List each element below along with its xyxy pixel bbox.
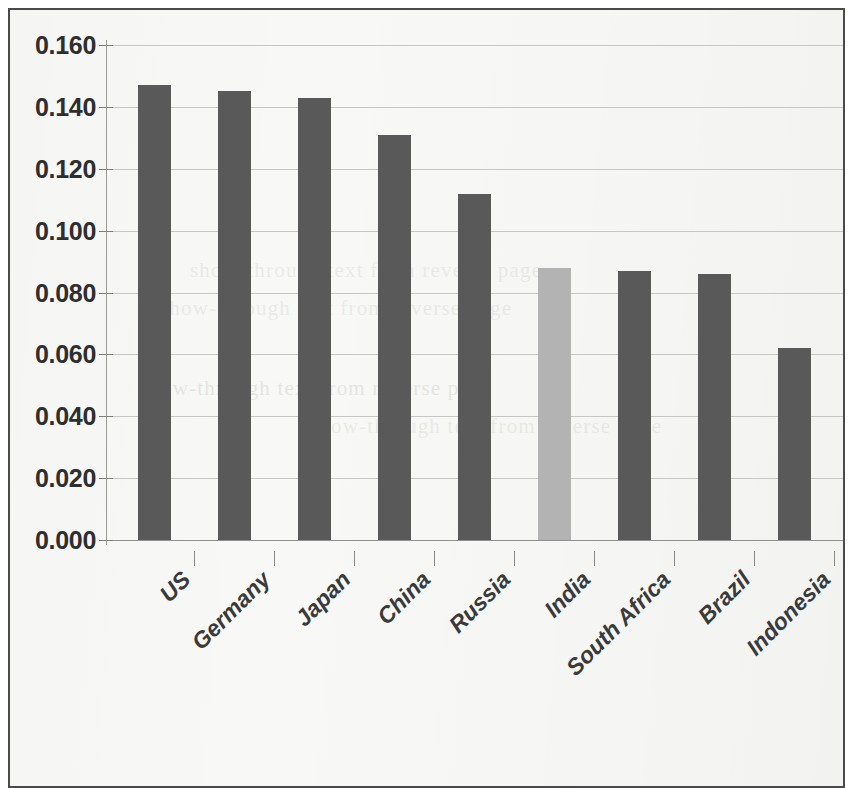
bar-india[interactable]	[538, 268, 571, 540]
plot-area	[106, 45, 845, 540]
x-axis-label-indonesia[interactable]: Indonesia	[741, 566, 836, 661]
x-axis-tick	[834, 551, 835, 566]
x-axis-tick	[434, 551, 435, 566]
x-axis-label-russia[interactable]: Russia	[443, 566, 515, 638]
y-axis-labels: 0.1600.1400.1200.1000.0800.0600.0400.020…	[10, 10, 96, 767]
bar-south-africa[interactable]	[618, 271, 651, 540]
x-axis-tick	[354, 551, 355, 566]
bar-germany[interactable]	[218, 91, 251, 540]
x-axis-tick	[594, 551, 595, 566]
x-axis-label-india[interactable]: India	[539, 566, 596, 623]
y-axis-tick-label: 0.120	[12, 154, 96, 183]
bar-russia[interactable]	[458, 194, 491, 541]
y-axis-tick-label: 0.040	[12, 402, 96, 431]
y-axis-tick-label: 0.020	[12, 464, 96, 493]
x-axis-tick	[274, 551, 275, 566]
gridline	[106, 540, 845, 541]
x-axis-tick	[514, 551, 515, 566]
y-axis-tick-label: 0.080	[12, 278, 96, 307]
x-axis-label-us[interactable]: US	[154, 566, 196, 608]
y-axis-tick-label: 0.100	[12, 216, 96, 245]
y-axis-tick-label: 0.000	[12, 526, 96, 555]
bar-brazil[interactable]	[698, 274, 731, 540]
y-axis-tick	[99, 540, 113, 541]
x-axis-label-brazil[interactable]: Brazil	[692, 566, 755, 629]
x-axis-label-japan[interactable]: Japan	[289, 566, 355, 632]
x-axis-label-china[interactable]: China	[371, 566, 435, 630]
bar-japan[interactable]	[298, 98, 331, 540]
bar-indonesia[interactable]	[778, 348, 811, 540]
x-axis-label-germany[interactable]: Germany	[186, 566, 276, 656]
y-axis-tick-label: 0.160	[12, 31, 96, 60]
x-axis-tick	[194, 551, 195, 566]
x-axis-tick	[754, 551, 755, 566]
y-axis-tick-label: 0.140	[12, 92, 96, 121]
bar-us[interactable]	[138, 85, 171, 540]
bar-china[interactable]	[378, 135, 411, 540]
y-axis-tick-label: 0.060	[12, 340, 96, 369]
x-axis-tick	[674, 551, 675, 566]
figure-frame: show-through text from reverse page show…	[8, 8, 845, 788]
